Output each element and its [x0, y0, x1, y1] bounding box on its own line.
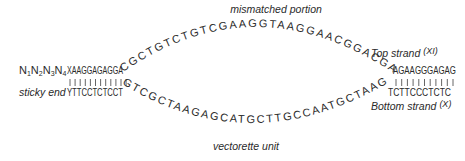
right-bottom-strand-sequence: TCTTCCCTCTC: [388, 86, 451, 98]
top-strand-label: Top strand(XI): [371, 46, 438, 59]
bottom-strand-label: Bottom strand(X): [371, 99, 451, 112]
left-base-pair-ticks: [70, 79, 126, 86]
left-bottom-strand-sequence: YTTCCTCTCCT: [67, 86, 123, 98]
sticky-end-label: sticky end: [19, 86, 67, 98]
vectorette-diagram: mismatched portion N1N2N3N4 XAAGGAGAGGA …: [0, 0, 465, 161]
left-top-strand-sequence: XAAGGAGAGGA: [67, 64, 123, 76]
vectorette-unit-label: vectorette unit: [213, 140, 280, 152]
right-base-pair-ticks: [396, 79, 453, 86]
right-top-strand-sequence: AGAAGGGAGAG: [393, 64, 456, 76]
bottom-arc-sequence: GTCGCTAAGAGCATGCTTGCCAATGCTAAGC: [0, 0, 388, 125]
mismatched-portion-label: mismatched portion: [230, 3, 322, 15]
overhang-sequence: N1N2N3N4: [19, 64, 67, 77]
